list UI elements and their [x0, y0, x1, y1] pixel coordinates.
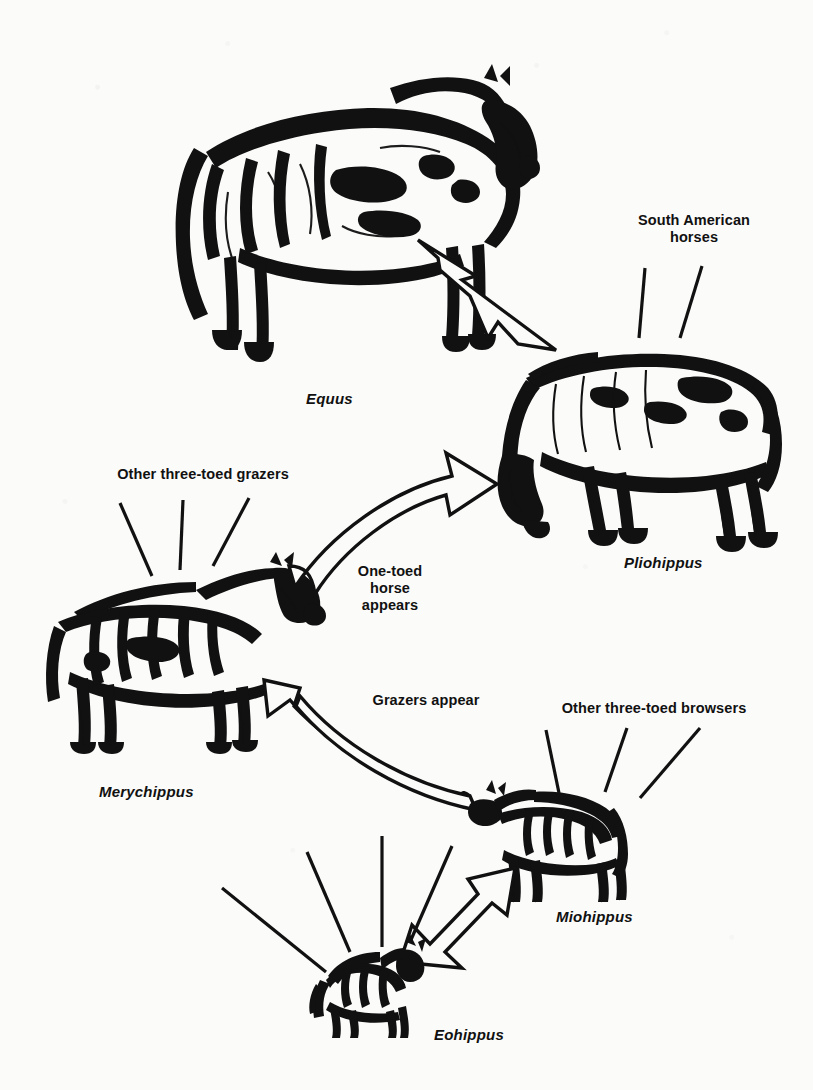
annotation-one-toed-horse-appears: One-toed horse appears — [330, 563, 450, 614]
eohippus-illustration — [310, 940, 430, 1040]
callout-other-three-toed-browsers: Other three-toed browsers — [536, 700, 772, 717]
label-equus: Equus — [306, 390, 353, 408]
callout-south-american-horses: South American horses — [609, 212, 779, 246]
label-merychippus: Merychippus — [99, 783, 194, 801]
label-eohippus: Eohippus — [434, 1026, 504, 1044]
horse-evolution-diagram: Equus South American horses — [0, 0, 813, 1090]
annotation-grazers-appear: Grazers appear — [346, 692, 506, 709]
callout-other-three-toed-grazers: Other three-toed grazers — [98, 466, 308, 483]
leader-tick — [307, 852, 350, 952]
label-miohippus: Miohippus — [556, 908, 633, 926]
eohippus-radiation-leaders — [0, 0, 813, 1090]
label-pliohippus: Pliohippus — [624, 554, 703, 572]
leader-tick — [410, 846, 452, 942]
